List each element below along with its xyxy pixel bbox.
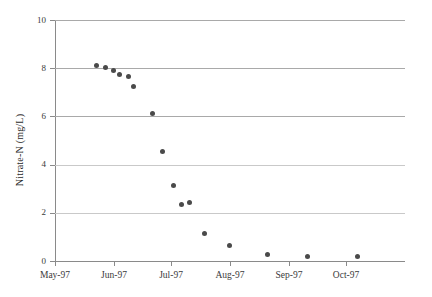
y-axis-tick-label: 2 bbox=[14, 208, 46, 217]
data-point bbox=[126, 74, 131, 79]
data-point bbox=[355, 254, 360, 259]
data-point bbox=[131, 84, 136, 89]
data-point bbox=[179, 202, 184, 207]
data-point bbox=[227, 243, 232, 248]
x-axis-tick bbox=[114, 261, 115, 266]
y-axis-tick-label: 6 bbox=[14, 112, 46, 121]
data-point bbox=[305, 254, 310, 259]
data-point bbox=[160, 149, 165, 154]
x-axis-tick bbox=[55, 261, 56, 266]
gridline bbox=[55, 213, 405, 214]
y-axis-tick-label: 0 bbox=[14, 257, 46, 266]
x-axis-tick bbox=[230, 261, 231, 266]
data-point bbox=[111, 68, 116, 73]
data-point bbox=[171, 183, 176, 188]
x-axis-tick-label: Oct-97 bbox=[311, 270, 381, 281]
data-point bbox=[202, 231, 207, 236]
data-point bbox=[187, 200, 192, 205]
data-point bbox=[117, 72, 122, 77]
nitrate-scatter-chart: Nitrate-N (mg/L) 0246810 May-97Jun-97Jul… bbox=[0, 0, 432, 297]
gridline bbox=[55, 20, 405, 21]
x-axis-tick bbox=[346, 261, 347, 266]
gridline bbox=[55, 116, 405, 117]
x-axis-tick bbox=[171, 261, 172, 266]
data-point bbox=[265, 252, 270, 257]
x-axis-tick bbox=[289, 261, 290, 266]
y-axis-title: Nitrate-N (mg/L) bbox=[14, 0, 25, 95]
y-axis-tick-label: 10 bbox=[14, 16, 46, 25]
gridline bbox=[55, 165, 405, 166]
plot-area bbox=[55, 20, 405, 261]
data-point bbox=[103, 65, 108, 70]
y-axis-tick-label: 8 bbox=[14, 64, 46, 73]
y-axis-tick-label: 4 bbox=[14, 160, 46, 169]
data-point bbox=[150, 111, 155, 116]
